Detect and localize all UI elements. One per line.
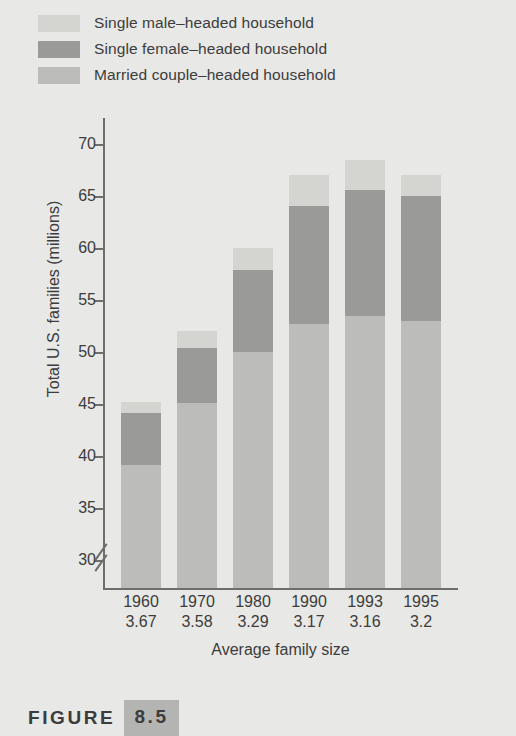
bar-segment-single-male-1970 [177,331,217,348]
bar-1980 [233,248,273,588]
plot-area: 303540455055606570 [103,118,458,590]
x-label-group-1960: 19603.67 [113,592,169,632]
bar-segment-single-male-1960 [121,402,161,413]
bar-1990 [289,175,329,588]
bar-1995 [401,175,441,588]
x-label-year: 1960 [113,592,169,612]
x-label-group-1970: 19703.58 [169,592,225,632]
x-axis-labels: 19603.6719703.5819803.2919903.1719933.16… [103,592,458,640]
figure-caption-number: 8.5 [124,700,178,736]
y-tick-label: 70 [78,135,96,153]
x-label-family-size: 3.29 [225,612,281,632]
bar-segment-single-female-1970 [177,348,217,403]
figure-caption-word: FIGURE [28,707,115,729]
y-tick-label: 55 [78,291,96,309]
y-tick-label: 35 [78,499,96,517]
bar-segment-single-female-1995 [401,196,441,321]
x-label-family-size: 3.67 [113,612,169,632]
x-label-family-size: 3.17 [281,612,337,632]
bar-segment-married-couple-1990 [289,324,329,588]
x-label-year: 1993 [337,592,393,612]
bar-segment-married-couple-1993 [345,316,385,588]
bar-1993 [345,160,385,588]
x-label-group-1990: 19903.17 [281,592,337,632]
bar-segment-single-female-1960 [121,413,161,465]
y-tick-label: 45 [78,395,96,413]
bar-segment-single-female-1980 [233,270,273,352]
bar-1970 [177,331,217,588]
x-label-group-1995: 19953.2 [393,592,449,632]
y-tick-label: 60 [78,239,96,257]
x-label-year: 1970 [169,592,225,612]
figure-caption: FIGURE 8.5 [28,700,179,736]
x-label-group-1980: 19803.29 [225,592,281,632]
y-tick-label: 40 [78,447,96,465]
y-axis-break-icon [96,542,114,572]
y-tick-label: 50 [78,343,96,361]
x-axis-line [103,588,458,590]
bar-segment-single-male-1995 [401,175,441,196]
y-tick-label: 30 [78,551,96,569]
bar-segment-married-couple-1960 [121,465,161,588]
y-axis-title: Total U.S. families (millions) [45,169,63,429]
bar-segment-single-male-1993 [345,160,385,190]
bar-segment-married-couple-1980 [233,352,273,588]
x-label-year: 1990 [281,592,337,612]
x-label-family-size: 3.2 [393,612,449,632]
y-axis-line [103,118,105,590]
bar-1960 [121,402,161,588]
y-tick-label: 65 [78,187,96,205]
x-label-group-1993: 19933.16 [337,592,393,632]
x-axis-title: Average family size [103,641,458,659]
x-label-year: 1980 [225,592,281,612]
bar-segment-single-male-1990 [289,175,329,206]
bar-segment-single-female-1990 [289,206,329,324]
x-label-year: 1995 [393,592,449,612]
bar-segment-married-couple-1995 [401,321,441,588]
x-label-family-size: 3.58 [169,612,225,632]
bar-segment-single-female-1993 [345,190,385,316]
bar-segment-married-couple-1970 [177,403,217,588]
x-label-family-size: 3.16 [337,612,393,632]
bar-segment-single-male-1980 [233,248,273,270]
